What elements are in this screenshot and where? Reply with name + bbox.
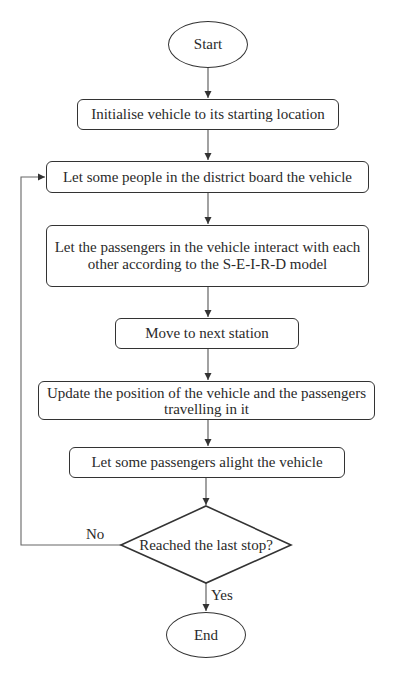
end-terminal: End (166, 612, 246, 658)
end-label: End (194, 627, 218, 644)
start-terminal: Start (168, 21, 248, 68)
start-label: Start (194, 36, 222, 53)
update-position-step: Update the position of the vehicle and t… (38, 381, 375, 420)
alight-vehicle-label: Let some passengers alight the vehicle (91, 454, 322, 471)
no-edge-label: No (86, 526, 104, 543)
update-position-label: Update the position of the vehicle and t… (39, 385, 374, 417)
board-vehicle-step: Let some people in the district board th… (46, 161, 369, 193)
interact-seird-label: Let the passengers in the vehicle intera… (51, 239, 364, 273)
yes-edge-label: Yes (211, 587, 233, 604)
move-next-station-step: Move to next station (115, 318, 299, 349)
move-next-station-label: Move to next station (145, 325, 269, 342)
interact-seird-step: Let the passengers in the vehicle intera… (46, 225, 369, 287)
initialise-vehicle-label: Initialise vehicle to its starting locat… (91, 106, 325, 123)
initialise-vehicle-step: Initialise vehicle to its starting locat… (77, 99, 339, 130)
board-vehicle-label: Let some people in the district board th… (63, 169, 352, 186)
alight-vehicle-step: Let some passengers alight the vehicle (69, 447, 345, 478)
decision-label: Reached the last stop? (121, 537, 291, 554)
